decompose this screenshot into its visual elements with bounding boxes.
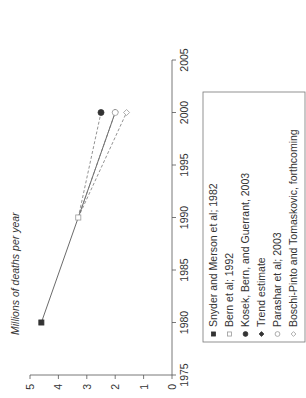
open-square-marker-icon — [227, 332, 231, 336]
series-line — [41, 218, 78, 323]
x-tick-label: 1990 — [178, 206, 190, 230]
series-lines — [41, 113, 126, 323]
filled-circle-marker-icon — [243, 332, 248, 337]
legend-label: Snyder and Merson et al; 1982 — [207, 183, 219, 327]
legend-label: Bern et al; 1992 — [223, 253, 235, 327]
open-diamond-marker-icon — [124, 110, 130, 116]
x-tick-label: 1995 — [178, 153, 190, 177]
x-tick-label: 1980 — [178, 311, 190, 335]
filled-circle-marker-icon — [98, 110, 104, 116]
legend-item: Trend estimate — [255, 257, 267, 336]
open-square-marker-icon — [76, 215, 81, 220]
y-tick-label: 2 — [109, 384, 121, 390]
series-line — [78, 113, 101, 218]
x-tick-label: 1975 — [178, 363, 190, 387]
y-tick-label: 0 — [166, 384, 178, 390]
open-circle-marker-icon — [275, 332, 280, 337]
y-tick-label: 1 — [138, 384, 150, 390]
legend-item: Bern et al; 1992 — [223, 253, 235, 336]
chart-stage: 1975198019851990199520002005 012345 Mill… — [0, 0, 306, 398]
legend-label: Kosek, Bern, and Guerrant, 2003 — [239, 173, 251, 327]
legend-item: Kosek, Bern, and Guerrant, 2003 — [239, 173, 251, 337]
filled-square-marker-icon — [39, 320, 44, 325]
filled-square-marker-icon — [211, 332, 215, 336]
legend-item: Snyder and Merson et al; 1982 — [207, 183, 219, 336]
data-markers — [39, 109, 130, 325]
legend-label: Trend estimate — [255, 257, 267, 327]
line-chart: 1975198019851990199520002005 012345 Mill… — [0, 0, 306, 398]
y-tick-label: 5 — [24, 384, 36, 390]
y-tick-label: 3 — [81, 384, 93, 390]
open-circle-marker-icon — [112, 110, 118, 116]
legend-label: Boschi-Pinto and Tomaskovic, forthcoming — [287, 129, 299, 327]
y-axis-label: Millions of deaths per year — [9, 212, 21, 335]
legend: Snyder and Merson et al; 1982Bern et al;… — [203, 92, 305, 342]
legend-item: Parashar et al; 2003 — [271, 232, 283, 336]
y-axis: 012345 — [24, 375, 178, 390]
x-axis: 1975198019851990199520002005 — [172, 48, 190, 387]
series-line — [78, 113, 126, 218]
legend-item: Boschi-Pinto and Tomaskovic, forthcoming — [287, 129, 299, 336]
x-tick-label: 2000 — [178, 101, 190, 125]
x-tick-label: 1985 — [178, 258, 190, 282]
y-tick-label: 4 — [52, 384, 64, 390]
x-tick-label: 2005 — [178, 48, 190, 72]
legend-label: Parashar et al; 2003 — [271, 232, 283, 327]
